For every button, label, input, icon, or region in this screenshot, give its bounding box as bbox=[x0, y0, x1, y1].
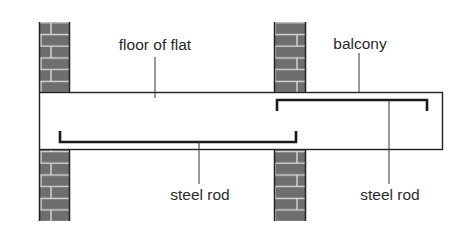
label-steel-rod-upper: steel rod bbox=[360, 186, 419, 203]
left-wall-upper bbox=[39, 22, 70, 92]
label-balcony: balcony bbox=[333, 35, 387, 52]
cantilever-balcony-diagram: floor of flat balcony steel rod steel ro… bbox=[0, 0, 463, 236]
outer-wall-lower bbox=[274, 150, 306, 221]
outer-wall-upper bbox=[274, 22, 306, 92]
label-floor-of-flat: floor of flat bbox=[119, 36, 192, 53]
label-steel-rod-lower: steel rod bbox=[170, 186, 229, 203]
left-wall-lower bbox=[39, 150, 70, 221]
